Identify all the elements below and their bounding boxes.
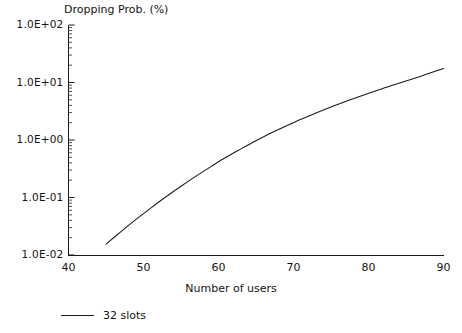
- x-axis-tick-label: 70: [269, 261, 319, 274]
- x-axis-tick-label: 80: [344, 261, 394, 274]
- y-minor-tick-group: [69, 28, 73, 238]
- x-axis-title: Number of users: [0, 282, 462, 295]
- y-axis-tick-label: 1.0E-01: [22, 191, 64, 203]
- chart-root: Dropping Prob. (%) 1.0E-021.0E-011.0E+00…: [0, 0, 462, 333]
- x-axis-tick-label: 60: [194, 261, 244, 274]
- series-line-32-slots: [106, 69, 444, 245]
- x-axis-tick-label: 40: [44, 261, 94, 274]
- y-axis-tick-label: 1.0E+01: [17, 76, 64, 88]
- y-axis-tick-label: 1.0E-02: [22, 248, 64, 260]
- legend-line-marker-icon: [61, 315, 94, 316]
- y-axis-tick-label: 1.0E+02: [17, 18, 64, 30]
- chart-legend: 32 slots: [61, 309, 146, 322]
- legend-entry-label: 32 slots: [103, 309, 146, 322]
- x-axis-tick-label: 90: [419, 261, 462, 274]
- y-axis-tick-label: 1.0E+00: [17, 133, 64, 145]
- x-axis-tick-label: 50: [119, 261, 169, 274]
- series-group: [106, 69, 444, 245]
